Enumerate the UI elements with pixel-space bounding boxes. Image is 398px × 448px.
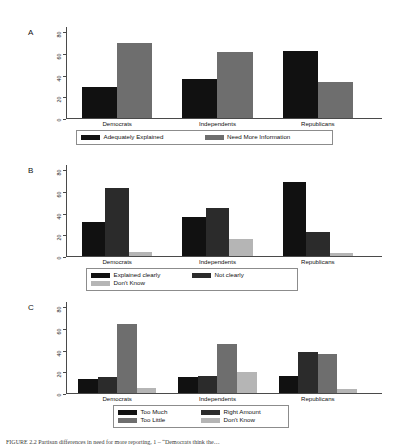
panel-a-plot-area: DemocratsIndependentsRepublicans 0204060… xyxy=(66,27,368,119)
y-tick-label-b-80: 80 xyxy=(57,170,62,176)
bar-republicans-need-more-information xyxy=(318,82,353,118)
panel-c-legend: Too MuchRight AmountToo LittleDon't Know xyxy=(113,405,289,428)
bar-group-independents: Independents xyxy=(167,302,267,393)
legend-swatch-icon xyxy=(118,418,137,424)
x-axis-label-independents: Independents xyxy=(167,120,267,127)
bar-democrats-need-more-information xyxy=(117,43,152,118)
figure-caption: FIGURE 2.2 Partisan differences in need … xyxy=(6,439,398,445)
legend-item-right-amount[interactable]: Right Amount xyxy=(201,409,278,415)
y-tick-a-60 xyxy=(63,54,66,55)
y-tick-label-a-80: 80 xyxy=(57,32,62,38)
bar-independents-adequately-explained xyxy=(182,79,217,118)
panel-a-label: A xyxy=(28,28,34,37)
bar-group-democrats: Democrats xyxy=(67,27,167,118)
legend-label: Right Amount xyxy=(224,409,261,415)
y-tick-c-80 xyxy=(63,307,66,308)
y-tick-b-20 xyxy=(63,235,66,236)
bar-democrats-too-little xyxy=(117,324,137,393)
legend-swatch-icon xyxy=(118,410,137,416)
panel-c-bars: DemocratsIndependentsRepublicans xyxy=(67,302,368,393)
bar-democrats-adequately-explained xyxy=(82,87,117,118)
bar-group-republicans: Republicans xyxy=(268,165,368,256)
y-tick-label-b-40: 40 xyxy=(57,213,62,219)
y-tick-b-0 xyxy=(63,257,66,258)
bar-group-democrats: Democrats xyxy=(67,302,167,393)
legend-item-too-much[interactable]: Too Much xyxy=(118,409,195,415)
legend-label: Too Little xyxy=(141,417,166,423)
y-tick-label-c-0: 0 xyxy=(57,394,62,397)
bar-republicans-explained-clearly xyxy=(283,182,306,256)
legend-item-don-t-know[interactable]: Don't Know xyxy=(201,417,278,423)
bar-independents-right-amount xyxy=(198,376,218,393)
legend-item-not-clearly[interactable]: Not clearly xyxy=(192,272,287,278)
y-tick-b-40 xyxy=(63,214,66,215)
y-tick-label-a-60: 60 xyxy=(57,54,62,60)
bar-democrats-too-much xyxy=(78,379,98,393)
legend-swatch-icon xyxy=(91,273,110,279)
bar-republicans-too-little xyxy=(318,354,338,393)
panel-a-legend: Adequately ExplainedNeed More Informatio… xyxy=(76,130,333,145)
legend-item-need-more-information[interactable]: Need More Information xyxy=(205,134,323,140)
x-axis-label-democrats: Democrats xyxy=(67,395,167,402)
y-tick-c-40 xyxy=(63,351,66,352)
figure-container: A DemocratsIndependentsRepublicans 02040… xyxy=(0,0,398,448)
legend-row: Too MuchRight Amount xyxy=(118,409,284,417)
x-axis-label-independents: Independents xyxy=(167,395,267,402)
panel-c: C DemocratsIndependentsRepublicans 02040… xyxy=(0,297,398,431)
panel-a: A DemocratsIndependentsRepublicans 02040… xyxy=(0,22,398,150)
panel-a-x-axis xyxy=(66,118,382,119)
legend-label: Explained clearly xyxy=(114,272,161,278)
legend-swatch-icon xyxy=(201,410,220,416)
panel-b-plot-area: DemocratsIndependentsRepublicans 0204060… xyxy=(66,165,368,257)
legend-item-too-little[interactable]: Too Little xyxy=(118,417,195,423)
legend-label: Too Much xyxy=(141,409,168,415)
y-tick-label-c-40: 40 xyxy=(57,350,62,356)
legend-label: Don't Know xyxy=(114,280,145,286)
legend-row: Explained clearlyNot clearly xyxy=(91,272,293,280)
panel-a-bars: DemocratsIndependentsRepublicans xyxy=(67,27,368,118)
y-tick-label-b-20: 20 xyxy=(57,235,62,241)
panel-b-legend: Explained clearlyNot clearlyDon't Know xyxy=(86,268,298,291)
bar-democrats-right-amount xyxy=(98,377,118,393)
bar-republicans-not-clearly xyxy=(306,232,329,256)
bar-republicans-right-amount xyxy=(298,352,318,393)
panel-c-plot-area: DemocratsIndependentsRepublicans 0204060… xyxy=(66,302,368,394)
y-tick-label-a-0: 0 xyxy=(57,119,62,122)
bar-democrats-don-t-know xyxy=(129,252,152,256)
legend-row: Too LittleDon't Know xyxy=(118,417,284,425)
panel-b-bars: DemocratsIndependentsRepublicans xyxy=(67,165,368,256)
x-axis-label-republicans: Republicans xyxy=(268,258,368,265)
bar-independents-not-clearly xyxy=(206,208,229,256)
bar-democrats-don-t-know xyxy=(137,388,157,393)
y-tick-label-a-20: 20 xyxy=(57,97,62,103)
legend-item-adequately-explained[interactable]: Adequately Explained xyxy=(81,134,199,140)
y-tick-label-b-60: 60 xyxy=(57,192,62,198)
y-tick-a-40 xyxy=(63,76,66,77)
legend-swatch-icon xyxy=(91,281,110,287)
bar-group-independents: Independents xyxy=(167,27,267,118)
bar-democrats-not-clearly xyxy=(105,188,128,256)
panel-b: B DemocratsIndependentsRepublicans 02040… xyxy=(0,160,398,290)
bar-republicans-adequately-explained xyxy=(283,51,318,118)
x-axis-label-republicans: Republicans xyxy=(268,120,368,127)
legend-label: Don't Know xyxy=(224,417,255,423)
legend-item-don-t-know[interactable]: Don't Know xyxy=(91,280,192,286)
y-tick-a-20 xyxy=(63,97,66,98)
panel-b-x-axis xyxy=(66,256,382,257)
x-axis-label-democrats: Democrats xyxy=(67,120,167,127)
y-tick-c-20 xyxy=(63,372,66,373)
y-tick-b-60 xyxy=(63,192,66,193)
legend-swatch-icon xyxy=(81,135,100,141)
y-tick-label-a-40: 40 xyxy=(57,75,62,81)
bar-independents-too-little xyxy=(217,344,237,393)
bar-republicans-don-t-know xyxy=(330,253,353,256)
bar-republicans-too-much xyxy=(279,376,299,393)
y-tick-label-b-0: 0 xyxy=(57,257,62,260)
legend-label: Adequately Explained xyxy=(104,134,164,140)
y-tick-label-c-20: 20 xyxy=(57,372,62,378)
bar-independents-explained-clearly xyxy=(182,217,205,256)
legend-item-explained-clearly[interactable]: Explained clearly xyxy=(91,272,186,278)
bar-group-republicans: Republicans xyxy=(268,302,368,393)
legend-swatch-icon xyxy=(192,273,211,279)
y-tick-c-0 xyxy=(63,394,66,395)
